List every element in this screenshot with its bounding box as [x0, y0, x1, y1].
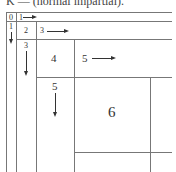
cell-2-label: 2 — [24, 27, 28, 35]
arrow-right-icon — [23, 17, 33, 18]
arrow-down-icon — [55, 93, 56, 113]
cell-5-col-label: 5 — [52, 81, 58, 92]
grid-line-top — [6, 12, 172, 13]
cell-4-label: 4 — [51, 53, 57, 64]
cell-3-row-label: 3 — [40, 27, 44, 35]
grid-line-row1 — [6, 21, 172, 22]
grid-line-col1 — [16, 12, 17, 172]
grid-line-row4 — [74, 152, 172, 153]
grid-line-col4 — [150, 77, 151, 172]
grid-line-col3 — [74, 39, 75, 172]
grid-line-col2 — [36, 21, 37, 172]
grid-line-row3 — [36, 77, 172, 78]
arrow-down-icon — [26, 51, 27, 72]
cell-6-label: 6 — [108, 105, 116, 120]
diagram-caption: K — (normal impartial). — [6, 0, 124, 9]
cell-1-row-label: 1 — [19, 14, 23, 22]
cell-0-label: 0 — [9, 14, 13, 22]
grid-line-row2 — [16, 39, 172, 40]
cell-5-row-label: 5 — [82, 53, 88, 64]
cell-1-col-label: 1 — [9, 23, 13, 31]
cell-3-col-label: 3 — [24, 42, 28, 50]
arrow-right-icon — [92, 58, 112, 59]
arrow-right-icon — [47, 31, 65, 32]
grid-line-left — [6, 12, 7, 172]
arrow-down-icon — [11, 32, 12, 40]
